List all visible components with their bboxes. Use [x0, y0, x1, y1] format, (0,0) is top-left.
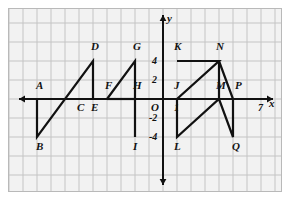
y-tick-neg2: -2 — [149, 113, 157, 123]
point-label-k: K — [174, 41, 181, 52]
point-label-i: I — [133, 141, 137, 152]
origin-label: O — [151, 102, 159, 113]
point-label-b: B — [36, 141, 43, 152]
point-label-l: L — [174, 141, 181, 152]
point-label-f: F — [105, 80, 112, 91]
point-label-p: P — [235, 80, 242, 91]
axis-arrow-left — [19, 96, 25, 103]
x-tick-7: 7 — [258, 103, 263, 113]
point-label-c: C — [77, 102, 84, 113]
point-label-m: M — [216, 80, 226, 91]
axis-arrow-down — [160, 179, 167, 185]
point-label-d: D — [91, 41, 99, 52]
figure-canvas: ABCDEFGHIJKLMNPQ 1742-2-4Oxy — [0, 0, 288, 197]
point-label-h: H — [133, 80, 142, 91]
point-label-a: A — [36, 80, 43, 91]
point-label-q: Q — [232, 141, 240, 152]
point-label-g: G — [133, 41, 141, 52]
x-tick-1: 1 — [174, 103, 179, 113]
point-label-j: J — [174, 80, 180, 91]
y-tick-2: 2 — [152, 75, 157, 85]
y-axis-label: y — [167, 13, 172, 24]
axis-arrow-up — [160, 15, 167, 21]
y-tick-4: 4 — [152, 56, 157, 66]
x-axis-label: x — [269, 98, 275, 109]
coordinate-plane: ABCDEFGHIJKLMNPQ 1742-2-4Oxy — [8, 8, 282, 192]
y-tick-neg4: -4 — [149, 132, 157, 142]
grid-and-shapes — [9, 9, 281, 191]
point-label-n: N — [216, 41, 224, 52]
point-label-e: E — [91, 102, 98, 113]
